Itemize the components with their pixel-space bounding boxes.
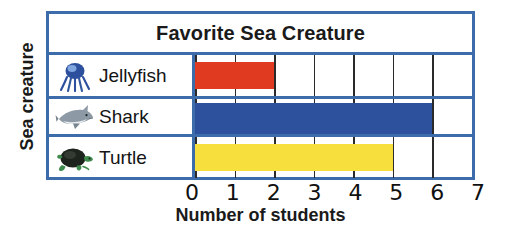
bar-turtle [195,144,393,171]
bar-track [195,99,472,134]
chart-title: Favorite Sea Creature [156,22,365,45]
chart-row-turtle: Turtle [49,137,472,178]
bar-jellyfish [195,62,274,89]
bar-track [195,55,472,96]
x-tick-7: 7 [471,181,485,205]
x-tick-5: 5 [389,181,403,205]
x-tick-3: 3 [308,181,322,205]
row-label-text: Shark [99,106,149,128]
x-tick-4: 4 [348,181,362,205]
chart-title-band: Favorite Sea Creature [49,14,472,55]
row-label-cell: Jellyfish [49,55,195,96]
y-axis-title: Sea creature [17,7,38,187]
x-tick-0: 0 [185,181,199,205]
row-label-text: Turtle [99,147,147,169]
bar-track [195,137,472,178]
plot-area: Jellyfish [49,55,472,177]
turtle-icon [55,142,95,174]
x-tick-1: 1 [226,181,240,205]
bar-chart: Favorite Sea Creature Jellyfish [46,11,475,180]
row-label-cell: Turtle [49,137,195,178]
x-tick-6: 6 [430,181,444,205]
jellyfish-icon [55,60,95,92]
row-label-text: Jellyfish [99,65,167,87]
shark-icon [55,101,95,133]
x-tick-2: 2 [267,181,281,205]
x-axis-title: Number of students [46,205,475,226]
row-label-cell: Shark [49,99,195,134]
x-axis-ticks: 0 1 2 3 4 5 6 7 [192,181,478,205]
chart-row-shark: Shark [49,96,472,137]
bar-shark [195,103,432,134]
chart-row-jellyfish: Jellyfish [49,55,472,96]
